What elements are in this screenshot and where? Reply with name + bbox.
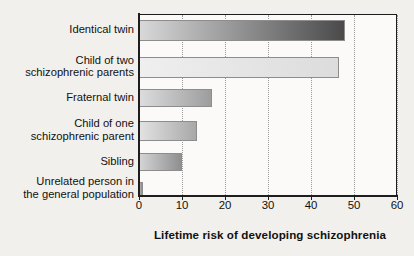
bar-sibling: [139, 153, 182, 171]
category-label-unrelated-person: Unrelated person in the general populati…: [0, 175, 134, 200]
category-axis-labels: Identical twin Child of two schizophreni…: [0, 14, 134, 196]
bar-child-of-two-schizophrenic-parents: [139, 57, 339, 78]
bar-unrelated-person: [139, 182, 143, 196]
x-tick-label-50: 50: [339, 198, 369, 212]
category-label-sibling: Sibling: [0, 155, 134, 168]
x-tick-label-10: 10: [167, 198, 197, 212]
gridline-60: [397, 15, 398, 197]
x-tick-label-40: 40: [296, 198, 326, 212]
y-axis-line: [138, 13, 140, 197]
x-tick-label-20: 20: [210, 198, 240, 212]
gridline-20: [225, 15, 226, 197]
x-tick-label-30: 30: [253, 198, 283, 212]
plot-area: [139, 14, 397, 196]
gridline-30: [268, 15, 269, 197]
bar-child-of-one-schizophrenic-parent: [139, 121, 197, 141]
bar-identical-twin: [139, 20, 345, 41]
x-axis-tick-labels: 0102030405060: [0, 198, 414, 216]
x-tick-label-0: 0: [124, 198, 154, 212]
category-label-child-of-two-schizophrenic-parents: Child of two schizophrenic parents: [0, 54, 134, 79]
x-axis-title: Lifetime risk of developing schizophreni…: [139, 228, 401, 241]
gridline-50: [354, 15, 355, 197]
x-tick-label-60: 60: [382, 198, 412, 212]
bar-chart: Identical twin Child of two schizophreni…: [0, 0, 414, 256]
bar-fraternal-twin: [139, 89, 212, 107]
gridline-40: [311, 15, 312, 197]
category-label-child-of-one-schizophrenic-parent: Child of one schizophrenic parent: [0, 117, 134, 142]
category-label-fraternal-twin: Fraternal twin: [0, 91, 134, 104]
category-label-identical-twin: Identical twin: [0, 23, 134, 36]
